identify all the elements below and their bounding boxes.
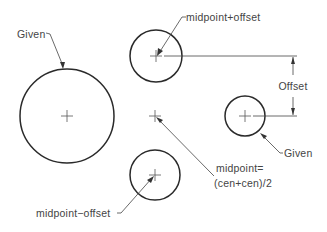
midpoint-eq-leader <box>158 119 214 176</box>
midpoint-plus-offset-label: midpoint+offset <box>186 11 260 23</box>
given-circle-large <box>20 69 114 163</box>
arrowhead-icon <box>156 117 163 123</box>
offset-label: Offset <box>278 80 307 92</box>
midpoint-eq-line1: midpoint= <box>216 162 264 174</box>
given-right-callout: Given <box>260 133 312 159</box>
midpoint-minus-offset-leader <box>117 178 152 213</box>
arrowhead-icon <box>260 133 267 139</box>
midpoint-eq-line2: (cen+cen)/2 <box>214 177 272 189</box>
diagram-canvas: Offset Given midpoint+offset Given midpo… <box>0 0 327 232</box>
given-right-label: Given <box>284 147 312 159</box>
arrowhead-icon <box>157 48 163 56</box>
arrowhead-up-icon <box>291 57 295 64</box>
arrowhead-icon <box>60 62 65 69</box>
offset-circle-bottom <box>130 150 180 200</box>
midpoint-plus-offset-callout: midpoint+offset <box>157 11 260 56</box>
midpoint-minus-offset-label: midpoint−offset <box>36 207 110 219</box>
given-left-leader <box>46 33 63 66</box>
offset-dimension: Offset <box>164 56 308 116</box>
given-left-callout: Given <box>17 28 65 69</box>
arrowhead-down-icon <box>291 108 295 115</box>
midpoint-minus-offset-callout: midpoint−offset <box>36 176 154 219</box>
given-left-label: Given <box>17 28 45 40</box>
midpoint-equation-callout: midpoint= (cen+cen)/2 <box>156 117 272 189</box>
